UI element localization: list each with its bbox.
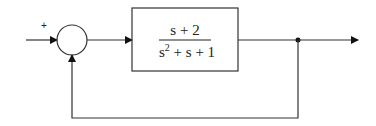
denominator-rest: + s + 1 [170, 44, 215, 60]
block-diagram: + s + 2 s2 + s + 1 [0, 0, 376, 126]
input-sign: + [41, 20, 47, 31]
tf-numerator: s + 2 [170, 22, 199, 38]
summing-junction [57, 25, 87, 55]
tf-denominator: s2 + s + 1 [159, 42, 215, 60]
